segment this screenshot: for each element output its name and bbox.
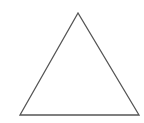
triangle-shape — [20, 13, 139, 115]
diagram-canvas — [0, 0, 144, 123]
